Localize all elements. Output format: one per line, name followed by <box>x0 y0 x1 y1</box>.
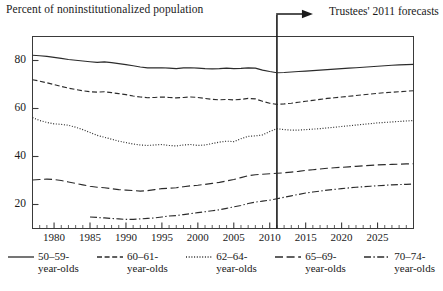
forecast-arrow-icon <box>277 10 313 18</box>
x-tick-label: 1980 <box>34 231 74 243</box>
y-tick-label: 60 <box>2 101 26 113</box>
legend-swatch-dashdot-icon <box>364 251 390 263</box>
legend-item[interactable]: 50–59-year-olds <box>8 250 79 274</box>
series-line-62-64 <box>33 118 414 146</box>
legend-item[interactable]: 65–69-year-olds <box>275 250 346 274</box>
series-lines <box>33 55 414 219</box>
x-tick-label: 2010 <box>250 231 290 243</box>
legend-label: 70–74-year-olds <box>394 250 435 274</box>
x-tick-label: 2000 <box>178 231 218 243</box>
x-tick-label: 1990 <box>106 231 146 243</box>
series-line-70-74 <box>90 184 413 219</box>
legend-swatch-longdash-icon <box>275 251 301 263</box>
y-tick-label: 20 <box>2 197 26 209</box>
x-tick-label: 2015 <box>286 231 326 243</box>
legend-label: 50–59-year-olds <box>38 250 79 274</box>
legend-label: 65–69-year-olds <box>305 250 346 274</box>
x-tick-label: 1995 <box>142 231 182 243</box>
axis-ticks <box>33 61 414 229</box>
x-tick-label: 2025 <box>358 231 398 243</box>
chart-legend: 50–59-year-olds60–61-year-olds62–64-year… <box>0 250 443 274</box>
chart-container: Percent of noninstitutionalized populati… <box>0 0 443 291</box>
legend-swatch-dotted-icon <box>186 251 212 263</box>
legend-item[interactable]: 60–61-year-olds <box>97 250 168 274</box>
x-tick-label: 2005 <box>214 231 254 243</box>
legend-item[interactable]: 62–64-year-olds <box>186 250 257 274</box>
series-line-50-59 <box>33 55 414 73</box>
x-tick-label: 2020 <box>322 231 362 243</box>
y-tick-label: 80 <box>2 53 26 65</box>
series-line-60-61 <box>33 80 414 105</box>
legend-label: 60–61-year-olds <box>127 250 168 274</box>
legend-label: 62–64-year-olds <box>216 250 257 274</box>
legend-item[interactable]: 70–74-year-olds <box>364 250 435 274</box>
legend-swatch-dashed-icon <box>97 251 123 263</box>
plot-area <box>0 0 443 291</box>
y-tick-label: 40 <box>2 149 26 161</box>
x-tick-label: 1985 <box>70 231 110 243</box>
legend-swatch-solid-icon <box>8 251 34 263</box>
